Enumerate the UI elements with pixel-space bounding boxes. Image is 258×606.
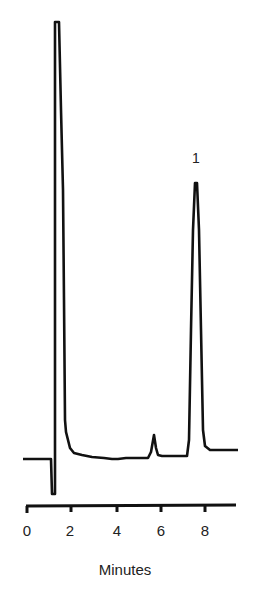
x-tick-label-6: 6	[157, 522, 165, 539]
x-tick-label-0: 0	[23, 522, 31, 539]
peak-1-label: 1	[192, 150, 200, 166]
x-axis-title: Minutes	[99, 561, 152, 578]
x-tick-label-4: 4	[113, 522, 121, 539]
chromatogram-chart	[0, 0, 258, 606]
x-tick-label-8: 8	[201, 522, 209, 539]
x-tick-label-2: 2	[66, 522, 74, 539]
chromatogram-trace	[23, 22, 238, 494]
x-axis-line	[26, 505, 236, 506]
